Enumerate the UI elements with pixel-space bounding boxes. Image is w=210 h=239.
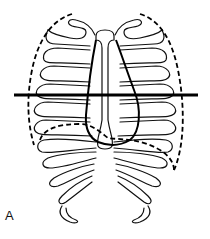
lung-outline-right	[140, 14, 183, 170]
diagram-svg	[0, 0, 210, 239]
heart-outline	[86, 40, 139, 145]
figure-label: A	[5, 208, 14, 223]
right-ribs	[114, 20, 176, 223]
rib-cage-diagram: A	[0, 0, 210, 239]
